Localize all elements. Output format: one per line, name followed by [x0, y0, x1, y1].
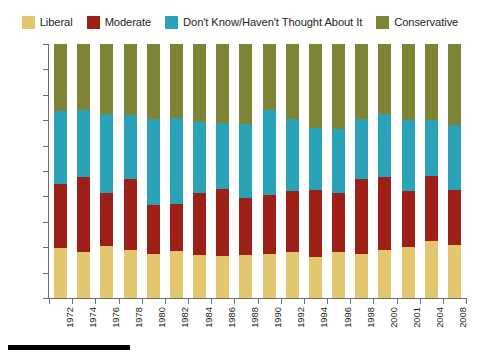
bar-segment [448, 245, 461, 298]
bar-segment [100, 114, 113, 193]
bar-segment [263, 254, 276, 298]
bar-segment [216, 44, 229, 123]
x-axis-tick-mark [258, 299, 259, 304]
bar-segment [170, 251, 183, 298]
bar-segment [239, 255, 252, 298]
bar-segment [124, 179, 137, 250]
bar-segment [147, 254, 160, 298]
x-axis-tick-label: 1980 [157, 307, 166, 328]
x-axis-tick-mark [327, 299, 328, 304]
x-axis-tick-label: 1972 [65, 307, 74, 328]
bar-segment [332, 44, 345, 129]
stacked-bar [286, 44, 299, 298]
bar-segment [239, 198, 252, 255]
stacked-bar [402, 44, 415, 298]
bar-segment [124, 250, 137, 298]
stacked-bar [147, 44, 160, 298]
x-axis-tick-mark [188, 299, 189, 304]
x-axis-tick-label: 1976 [111, 307, 120, 328]
x-axis-tick-mark [466, 299, 467, 304]
bar-segment [54, 44, 67, 111]
bar-segment [100, 44, 113, 114]
stacked-bar [54, 44, 67, 298]
bar-segment [77, 44, 90, 110]
bar-segment [309, 190, 322, 257]
stacked-bar [425, 44, 438, 298]
bar-segment [124, 44, 137, 115]
bar-segment [355, 119, 368, 179]
x-axis-tick-label: 1996 [343, 307, 352, 328]
bar-segment [332, 129, 345, 193]
bar-segment [54, 111, 67, 183]
bar-segment [378, 250, 391, 298]
x-axis-tick-label: 2001 [412, 307, 421, 328]
x-axis-tick-mark [211, 299, 212, 304]
stacked-bar [448, 44, 461, 298]
bar-segment [286, 191, 299, 252]
x-axis-tick-label: 2008 [458, 307, 467, 328]
x-axis-tick-mark [49, 299, 50, 304]
x-axis-tick-label: 1982 [180, 307, 189, 328]
x-axis-tick-label: 1992 [296, 307, 305, 328]
x-axis-tick-label: 2000 [389, 307, 398, 328]
stacked-bar [355, 44, 368, 298]
chart-plot-wrapper: 0%10%20%30%40%50%60%70%80%90%100% 197219… [0, 0, 480, 355]
stacked-bar [124, 44, 137, 298]
bar-segment [193, 122, 206, 193]
x-axis-tick-label: 1988 [250, 307, 259, 328]
bar-segment [216, 189, 229, 256]
bar-segment [402, 247, 415, 298]
bar-segment [309, 128, 322, 190]
bar-segment [263, 44, 276, 110]
bottom-rule [8, 345, 130, 350]
bar-segment [100, 193, 113, 246]
x-axis-tick-label: 1986 [227, 307, 236, 328]
bar-segment [239, 44, 252, 124]
bar-segment [402, 120, 415, 191]
bar-segment [378, 114, 391, 178]
bar-segment [378, 44, 391, 114]
x-axis-tick-label: 1998 [366, 307, 375, 328]
stacked-bar [216, 44, 229, 298]
bar-segment [378, 177, 391, 249]
bar-segment [216, 123, 229, 189]
stacked-bar [239, 44, 252, 298]
x-axis-tick-mark [119, 299, 120, 304]
x-axis-tick-label: 1978 [134, 307, 143, 328]
x-axis-tick-label: 1990 [273, 307, 282, 328]
bar-segment [309, 44, 322, 128]
bar-segment [100, 246, 113, 298]
bar-segment [77, 177, 90, 252]
bar-segment [286, 119, 299, 191]
bar-segment [239, 124, 252, 198]
bar-segment [309, 257, 322, 298]
bar-segment [147, 119, 160, 205]
bar-segment [170, 204, 183, 251]
x-axis-tick-mark [304, 299, 305, 304]
bar-segment [332, 193, 345, 253]
bar-segment [402, 44, 415, 120]
stacked-bar-plot-area [49, 44, 466, 298]
bar-segment [425, 120, 438, 176]
stacked-bar [332, 44, 345, 298]
x-axis-tick-mark [281, 299, 282, 304]
x-axis-tick-mark [165, 299, 166, 304]
x-axis-tick-label: 1994 [319, 307, 328, 328]
x-axis-tick-mark [373, 299, 374, 304]
bar-segment [332, 252, 345, 298]
bar-segment [263, 195, 276, 253]
bar-segment [77, 110, 90, 177]
stacked-bar [77, 44, 90, 298]
x-axis-tick-mark [397, 299, 398, 304]
bar-segment [193, 193, 206, 255]
bar-segment [448, 44, 461, 125]
stacked-bar [378, 44, 391, 298]
bar-segment [124, 115, 137, 179]
bar-segment [54, 184, 67, 249]
x-axis-tick-mark [234, 299, 235, 304]
bar-segment [77, 252, 90, 298]
bar-segment [193, 255, 206, 298]
bar-segment [263, 110, 276, 195]
bar-segment [54, 248, 67, 298]
bar-segment [286, 252, 299, 298]
